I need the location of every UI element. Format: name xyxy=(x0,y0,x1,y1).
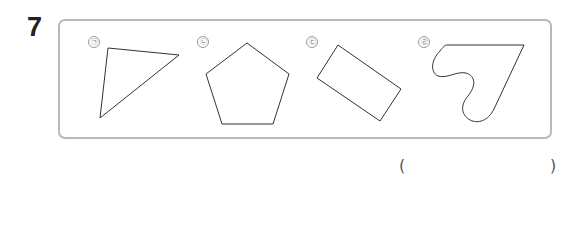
rectangle-figure xyxy=(317,45,401,121)
pentagon-figure xyxy=(206,43,289,124)
curved-figure xyxy=(433,45,524,122)
answer-blank[interactable] xyxy=(410,158,548,178)
triangle-figure xyxy=(100,48,179,118)
answer-close-paren: ) xyxy=(550,156,556,175)
answer-open-paren: ( xyxy=(399,156,405,175)
